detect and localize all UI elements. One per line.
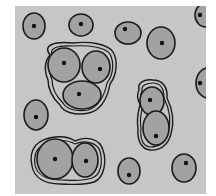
cell-membrane	[63, 81, 101, 109]
nucleus	[154, 134, 158, 138]
cluster-horizontal-pair	[31, 137, 105, 185]
cell-membrane	[172, 154, 196, 182]
cell-membrane	[143, 111, 169, 145]
cell-membrane	[82, 51, 110, 83]
nucleus	[184, 161, 188, 165]
nucleus	[198, 81, 202, 85]
cluster-cell	[72, 143, 98, 177]
nucleus	[53, 157, 57, 161]
cell-2	[69, 14, 93, 36]
cluster-cell	[48, 48, 80, 82]
cell-membrane	[118, 158, 140, 184]
cell-4	[147, 27, 175, 59]
cell-1	[23, 13, 45, 39]
cell-5	[195, 3, 216, 27]
cluster-cell	[82, 51, 110, 83]
nucleus	[32, 24, 36, 28]
cluster-cell	[63, 81, 101, 109]
nucleus	[77, 92, 81, 96]
cluster-cell	[37, 139, 73, 179]
nucleus	[98, 67, 102, 71]
cluster-cell	[140, 87, 164, 115]
cell-3	[115, 22, 141, 44]
cell-membrane	[115, 22, 141, 44]
cell-membrane	[140, 87, 164, 115]
cell-7	[24, 100, 48, 130]
nucleus	[79, 22, 83, 26]
nucleus	[198, 13, 202, 17]
cell-6	[196, 68, 216, 98]
nucleus	[127, 173, 131, 177]
nucleus	[160, 41, 164, 45]
cluster-cell	[143, 111, 169, 145]
cell-9	[172, 154, 196, 182]
nucleus	[84, 159, 88, 163]
nucleus	[148, 98, 152, 102]
nucleus	[62, 61, 66, 65]
cell-8	[118, 158, 140, 184]
diagram-content	[15, 3, 216, 194]
nucleus	[34, 115, 38, 119]
nucleus	[123, 27, 127, 31]
cell-diagram	[0, 0, 216, 196]
cell-diagram-canvas	[0, 0, 216, 196]
